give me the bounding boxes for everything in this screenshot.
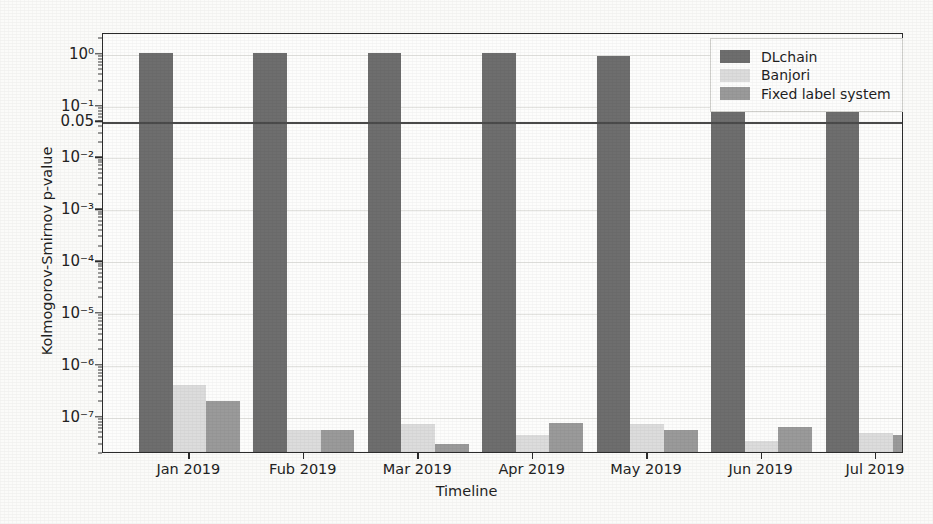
x-tick-mark bbox=[532, 453, 533, 459]
legend-label: Fixed label system bbox=[761, 86, 891, 102]
y-tick-minor bbox=[98, 272, 102, 273]
y-tick-minor bbox=[98, 321, 102, 322]
y-tick-label: 10⁻⁷ bbox=[20, 408, 94, 426]
y-tick-minor bbox=[98, 443, 102, 444]
y-tick-minor bbox=[98, 324, 102, 325]
y-tick-minor bbox=[98, 211, 102, 212]
y-tick-label: 10⁻⁵ bbox=[20, 304, 94, 322]
y-tick-minor bbox=[98, 89, 102, 90]
x-tick-label: Apr 2019 bbox=[498, 461, 565, 477]
y-tick-minor bbox=[98, 107, 102, 108]
y-tick-minor bbox=[98, 193, 102, 194]
y-tick-minor bbox=[98, 65, 102, 66]
y-tick-major bbox=[95, 260, 102, 261]
x-tick-mark bbox=[646, 453, 647, 459]
y-tick-minor bbox=[98, 421, 102, 422]
y-tick-minor bbox=[98, 245, 102, 246]
y-tick-minor bbox=[98, 236, 102, 237]
legend-item: Banjori bbox=[720, 67, 891, 83]
y-tick-minor bbox=[98, 349, 102, 350]
x-tick-mark bbox=[761, 453, 762, 459]
y-tick-major bbox=[95, 312, 102, 313]
y-tick-minor bbox=[98, 281, 102, 282]
y-tick-minor bbox=[98, 372, 102, 373]
y-tick-minor bbox=[98, 318, 102, 319]
bar-chart-figure: 10⁰10⁻¹10⁻²10⁻³10⁻⁴10⁻⁵10⁻⁶10⁻⁷0.05 Kolm… bbox=[0, 0, 933, 524]
y-tick-minor bbox=[98, 220, 102, 221]
x-tick-label: Jun 2019 bbox=[728, 461, 792, 477]
y-tick-minor bbox=[98, 113, 102, 114]
y-tick-minor bbox=[98, 453, 102, 454]
legend-item: DLchain bbox=[720, 49, 891, 65]
y-tick-minor bbox=[98, 428, 102, 429]
legend-label: Banjori bbox=[761, 67, 810, 83]
y-tick-minor bbox=[98, 159, 102, 160]
y-tick-minor bbox=[98, 110, 102, 111]
x-tick-label: Jul 2019 bbox=[845, 461, 904, 477]
y-tick-minor bbox=[98, 217, 102, 218]
x-tick-mark bbox=[303, 453, 304, 459]
y-tick-minor bbox=[98, 424, 102, 425]
y-tick-minor bbox=[98, 376, 102, 377]
y-tick-minor bbox=[98, 178, 102, 179]
x-tick-label: Fub 2019 bbox=[269, 461, 336, 477]
y-tick-minor bbox=[98, 297, 102, 298]
y-tick-minor bbox=[98, 385, 102, 386]
y-tick-minor bbox=[98, 38, 102, 39]
y-tick-minor bbox=[98, 288, 102, 289]
y-tick-minor bbox=[98, 432, 102, 433]
y-tick-minor bbox=[98, 61, 102, 62]
y-tick-minor bbox=[98, 367, 102, 368]
y-tick-minor bbox=[98, 369, 102, 370]
y-tick-minor bbox=[98, 391, 102, 392]
x-tick-mark bbox=[875, 453, 876, 459]
y-tick-label: 10⁻⁶ bbox=[20, 356, 94, 374]
legend-swatch-icon bbox=[720, 87, 750, 100]
y-tick-minor bbox=[98, 419, 102, 420]
y-tick-minor bbox=[98, 121, 102, 122]
x-tick-mark bbox=[188, 453, 189, 459]
y-tick-label: 10⁻² bbox=[20, 148, 94, 166]
y-tick-minor bbox=[98, 58, 102, 59]
y-tick-minor bbox=[98, 333, 102, 334]
y-tick-minor bbox=[98, 141, 102, 142]
y-tick-minor bbox=[98, 315, 102, 316]
legend-swatch-icon bbox=[720, 69, 750, 82]
x-tick-label: May 2019 bbox=[610, 461, 682, 477]
y-tick-minor bbox=[98, 214, 102, 215]
y-tick-minor bbox=[98, 224, 102, 225]
y-tick-minor bbox=[98, 162, 102, 163]
x-tick-mark bbox=[417, 453, 418, 459]
y-tick-major bbox=[95, 105, 102, 106]
legend-swatch-icon bbox=[720, 50, 750, 63]
y-tick-minor bbox=[98, 117, 102, 118]
y-tick-minor bbox=[98, 437, 102, 438]
y-tick-minor bbox=[98, 69, 102, 70]
y-tick-major bbox=[95, 364, 102, 365]
x-tick-label: Jan 2019 bbox=[156, 461, 220, 477]
y-tick-minor bbox=[98, 340, 102, 341]
chart-legend: DLchainBanjoriFixed label system bbox=[710, 38, 903, 112]
threshold-tick-label: 0.05 bbox=[20, 112, 94, 130]
y-tick-major bbox=[95, 157, 102, 158]
y-tick-minor bbox=[98, 276, 102, 277]
y-tick-major bbox=[95, 416, 102, 417]
y-tick-minor bbox=[98, 56, 102, 57]
significance-threshold-line bbox=[103, 122, 902, 123]
y-tick-minor bbox=[98, 173, 102, 174]
y-tick-major bbox=[95, 53, 102, 54]
legend-label: DLchain bbox=[761, 49, 818, 65]
x-tick-label: Mar 2019 bbox=[383, 461, 452, 477]
y-tick-label: 10⁰ bbox=[20, 45, 94, 63]
y-tick-label: 10⁻³ bbox=[20, 200, 94, 218]
y-tick-minor bbox=[98, 126, 102, 127]
y-tick-minor bbox=[98, 263, 102, 264]
y-tick-minor bbox=[98, 168, 102, 169]
y-tick-minor bbox=[98, 229, 102, 230]
x-axis-label: Timeline bbox=[0, 483, 933, 499]
y-tick-minor bbox=[98, 132, 102, 133]
y-tick-minor bbox=[98, 269, 102, 270]
y-tick-minor bbox=[98, 74, 102, 75]
y-tick-minor bbox=[98, 80, 102, 81]
y-tick-minor bbox=[98, 165, 102, 166]
